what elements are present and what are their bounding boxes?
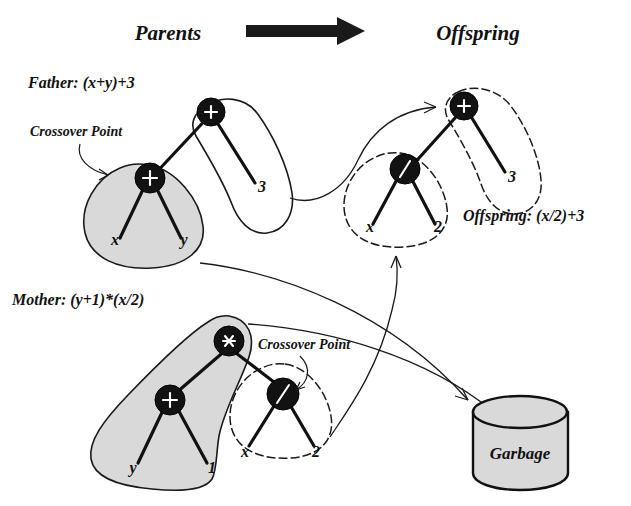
offspring-leaf-x: x [365, 218, 374, 235]
offspring-leaf-2: 2 [433, 218, 442, 235]
father-crossover-label: Crossover Point [30, 124, 123, 139]
offspring-title: Offspring: (x/2)+3 [463, 207, 584, 225]
parents-header: Parents [134, 21, 202, 45]
father-crossover-pointer [79, 144, 108, 180]
father-title: Father: (x+y)+3 [27, 74, 135, 92]
mother-root-node [214, 326, 244, 356]
mother-leaf-x: x [240, 443, 249, 460]
garbage-label: Garbage [490, 444, 551, 463]
father-leaf-y: y [178, 231, 188, 249]
offspring-root-node [450, 92, 478, 120]
offspring-header: Offspring [436, 21, 520, 45]
father-leaf-3: 3 [257, 178, 266, 195]
mother-leaf-1: 1 [208, 459, 216, 476]
garbage-cylinder: Garbage [473, 396, 568, 490]
diagram-canvas: Parents Offspring Father: (x+y)+3 Crosso… [0, 0, 631, 506]
thick-right-arrow-icon [246, 17, 365, 45]
mother-leaf-y: y [127, 459, 137, 477]
mother-leaf-2: 2 [311, 443, 320, 460]
mother-plus-node [155, 385, 185, 415]
mother-crossover-node [267, 378, 299, 410]
father-crossover-node [135, 163, 165, 193]
mother-crossover-pointer [296, 356, 308, 390]
father-root-right-branch [213, 116, 255, 183]
offspring-leaf-3: 3 [507, 168, 516, 185]
mother-title: Mother: (y+1)*(x/2) [11, 291, 144, 309]
crossover-diagram-svg: Parents Offspring Father: (x+y)+3 Crosso… [0, 0, 631, 506]
father-root-node [197, 98, 225, 126]
father-leaf-x: x [110, 231, 119, 248]
mother-crossover-label: Crossover Point [258, 337, 351, 352]
offspring-division-node [390, 154, 420, 184]
